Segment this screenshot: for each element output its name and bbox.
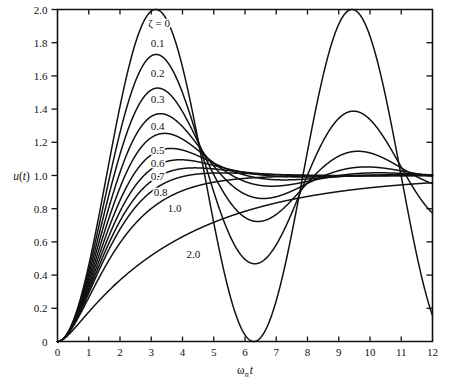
y-axis-title: u(t) (13, 170, 30, 183)
curve-group (58, 10, 433, 342)
curve-label: 0.2 (151, 67, 165, 79)
step-response-plot: 0123456789101112 00.20.40.60.81.01.21.41… (0, 0, 457, 386)
x-tick-label: 8 (305, 346, 311, 358)
x-tick-label: 7 (274, 346, 280, 358)
curve-label: 0.6 (151, 157, 165, 169)
x-tick-label: 2 (117, 346, 123, 358)
x-tick-label: 9 (336, 346, 342, 358)
curve-label: 0.7 (151, 170, 165, 182)
y-tick-label: 1.0 (34, 170, 48, 182)
y-tick-label: 0.6 (34, 236, 48, 248)
x-tick-label: 11 (396, 346, 407, 358)
curve-label: 1.0 (168, 202, 182, 214)
y-tick-label: 1.6 (34, 70, 48, 82)
y-tick-label: 1.2 (34, 136, 48, 148)
x-tick-label: 5 (211, 346, 217, 358)
y-tick-label: 0.8 (34, 203, 48, 215)
x-tick-label: 12 (427, 346, 438, 358)
x-tick-labels: 0123456789101112 (55, 346, 438, 358)
x-axis-title: ωnt (237, 364, 254, 379)
x-tick-label: 10 (365, 346, 377, 358)
y-tick-label: 1.8 (34, 37, 48, 49)
y-tick-label: 2.0 (34, 4, 48, 16)
response-curve (58, 54, 433, 341)
curve-label: 0.3 (151, 93, 165, 105)
curve-label: 0.8 (154, 186, 168, 198)
curve-label: 0.5 (151, 144, 165, 156)
chart-figure: 0123456789101112 00.20.40.60.81.01.21.41… (0, 0, 457, 386)
x-tick-label: 6 (242, 346, 248, 358)
x-tick-label: 1 (86, 346, 92, 358)
response-curve (58, 114, 433, 342)
curve-label: ζ = 0 (148, 17, 170, 30)
y-tick-label: 0 (42, 336, 48, 348)
response-curve (58, 133, 433, 341)
curve-label: 2.0 (187, 248, 201, 260)
response-curve (58, 173, 433, 342)
x-tick-label: 4 (180, 346, 186, 358)
curve-label: 0.1 (151, 37, 165, 49)
x-tick-label: 3 (149, 346, 155, 358)
y-tick-label: 1.4 (34, 103, 48, 115)
y-tick-label: 0.4 (34, 269, 48, 281)
x-tick-label: 0 (55, 346, 61, 358)
y-tick-labels: 00.20.40.60.81.01.21.41.61.82.0 (34, 4, 48, 348)
y-tick-label: 0.2 (34, 302, 48, 314)
curve-label: 0.4 (151, 120, 165, 132)
